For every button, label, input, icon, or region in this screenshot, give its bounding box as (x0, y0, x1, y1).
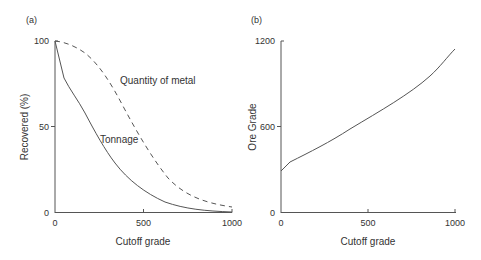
chart-b: (b) 1200 600 0 0 500 1000 Cutoff grade O… (247, 15, 465, 247)
x-tick-label-0-a: 0 (52, 218, 57, 228)
y-tick-label-50-a: 50 (39, 122, 49, 132)
y-tick-label-1200-b: 1200 (255, 36, 275, 46)
chart-a: (a) 100 50 0 0 500 1000 Cutoff grade Rec… (19, 15, 242, 247)
quantity-of-metal-curve (55, 41, 232, 207)
ore-grade-curve (281, 49, 455, 171)
panel-label-a: (a) (26, 15, 37, 25)
y-tick-label-0-b: 0 (270, 208, 275, 218)
x-tick-label-500-a: 500 (136, 218, 151, 228)
annotation-tonnage: Tonnage (100, 134, 139, 145)
tonnage-curve (55, 41, 232, 212)
x-tick-label-0-b: 0 (278, 218, 283, 228)
x-axis-label-b: Cutoff grade (341, 236, 396, 247)
figure: (a) 100 50 0 0 500 1000 Cutoff grade Rec… (0, 0, 481, 260)
x-tick-label-500-b: 500 (360, 218, 375, 228)
annotation-quantity-of-metal: Quantity of metal (120, 75, 196, 86)
y-tick-label-100-a: 100 (34, 36, 49, 46)
y-tick-label-0-a: 0 (44, 208, 49, 218)
x-axis-label-a: Cutoff grade (116, 236, 171, 247)
y-tick-label-600-b: 600 (260, 122, 275, 132)
x-tick-label-1000-a: 1000 (222, 218, 242, 228)
x-tick-label-1000-b: 1000 (445, 218, 465, 228)
y-axis-label-a: Recovered (%) (19, 94, 30, 161)
y-axis-label-b: Ore Grade (247, 103, 258, 151)
panel-label-b: (b) (251, 15, 262, 25)
